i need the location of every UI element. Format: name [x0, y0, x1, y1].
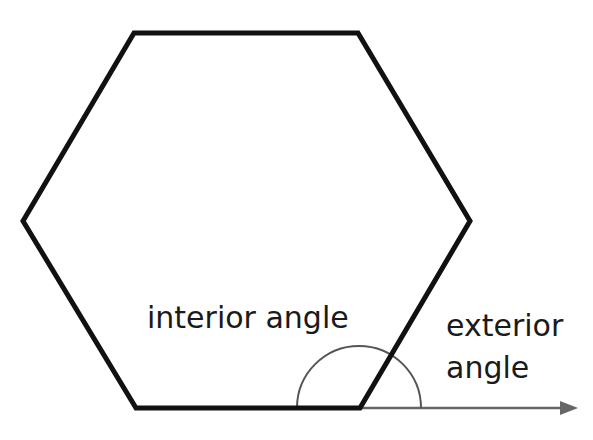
hexagon-outline: [23, 33, 470, 408]
exterior-angle-label-line2: angle: [446, 353, 529, 383]
angle-arc: [297, 346, 421, 408]
interior-angle-label: interior angle: [147, 303, 349, 333]
exterior-angle-label-line1: exterior: [446, 311, 563, 341]
arrowhead-icon: [560, 401, 578, 415]
